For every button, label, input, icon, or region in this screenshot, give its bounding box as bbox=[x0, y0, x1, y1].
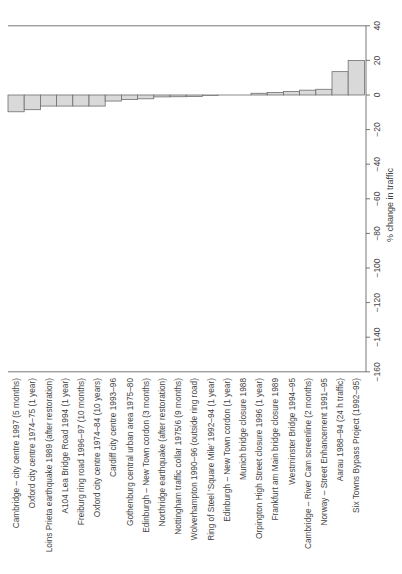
category-label: Edinburgh – New Town cordon (1 year) bbox=[222, 378, 232, 522]
category-label: Six Towns Bypass Project (1992–95) bbox=[351, 378, 361, 513]
category-label: Gothenburg central urban area 1975–80 bbox=[125, 378, 135, 526]
bar bbox=[202, 95, 218, 96]
bar bbox=[186, 95, 202, 96]
bar bbox=[348, 60, 364, 95]
category-label: Aarau 1988–94 (24 h traffic) bbox=[335, 378, 345, 481]
category-label: Orpington High Street closure 1996 (1 ye… bbox=[254, 378, 264, 539]
bar bbox=[89, 95, 105, 106]
category-label: Oxford city centre 1974–84 (10 years) bbox=[92, 378, 102, 518]
tick-label: 20 bbox=[372, 55, 382, 65]
tick-label: −140 bbox=[372, 327, 382, 346]
tick-label: −60 bbox=[372, 191, 382, 206]
category-label: Freiburg ring road 1996–97 (10 months) bbox=[76, 378, 86, 525]
category-labels: Cambridge – city centre 1997 (5 months)O… bbox=[11, 378, 361, 553]
bar bbox=[24, 95, 40, 110]
tick-label: 40 bbox=[372, 21, 382, 31]
category-label: Westminster Bridge 1994–95 bbox=[287, 378, 297, 485]
bar bbox=[332, 72, 348, 95]
axis-title: % change in traffic bbox=[385, 168, 395, 242]
tick-label: −40 bbox=[372, 157, 382, 172]
bar bbox=[267, 92, 283, 95]
category-label: Cardiff city centre 1993–96 bbox=[108, 378, 118, 477]
category-label: Ring of Steel 'Square Mile' 1992–94 (1 y… bbox=[206, 378, 216, 541]
category-label: Frankfurt am Main bridge closure 1989 bbox=[270, 378, 280, 521]
tick-label: −160 bbox=[372, 362, 382, 381]
bar bbox=[138, 95, 154, 99]
category-label: Edinburgh – New Town cordon (3 months) bbox=[141, 378, 151, 533]
bar bbox=[283, 92, 299, 95]
bar bbox=[73, 95, 89, 106]
category-label: Norway – Street Enhancement 1991–95 bbox=[319, 378, 329, 526]
category-label: Loins Prieta earthquake 1989 (after rest… bbox=[44, 378, 54, 553]
tick-label: −120 bbox=[372, 293, 382, 312]
bar bbox=[121, 95, 137, 99]
tick-label: −20 bbox=[372, 122, 382, 137]
bars-group bbox=[8, 60, 364, 111]
category-label: Nottingham traffic collar 1975/6 (9 mont… bbox=[173, 378, 183, 535]
bar bbox=[154, 95, 170, 97]
tick-label: 0 bbox=[372, 92, 382, 97]
bar bbox=[8, 95, 24, 112]
category-label: Wolverhampton 1990–96 (outside ring road… bbox=[189, 378, 199, 540]
bar bbox=[170, 95, 186, 97]
category-label: A104 Lea Bridge Road 1994 (1 year) bbox=[60, 378, 70, 514]
value-axis: 40200−20−40−60−80−100−120−140−160 bbox=[8, 21, 382, 382]
bar bbox=[105, 95, 121, 101]
category-label: Northridge earthquake (after restoration… bbox=[157, 378, 167, 527]
tick-label: −80 bbox=[372, 226, 382, 241]
bar bbox=[251, 93, 267, 95]
category-label: Oxford city centre 1974–75 (1 year) bbox=[27, 378, 37, 509]
bar bbox=[300, 90, 316, 95]
bar bbox=[57, 95, 73, 106]
traffic-change-chart: 40200−20−40−60−80−100−120−140−160 Cambri… bbox=[0, 0, 402, 574]
bar bbox=[40, 95, 56, 106]
category-label: Cambridge – city centre 1997 (5 months) bbox=[11, 378, 21, 529]
category-label: Cambridge – River Cam screenline (2 mont… bbox=[303, 378, 313, 549]
tick-label: −100 bbox=[372, 258, 382, 277]
category-label: Munich bridge closure 1988 bbox=[238, 378, 248, 480]
bar bbox=[316, 89, 332, 95]
